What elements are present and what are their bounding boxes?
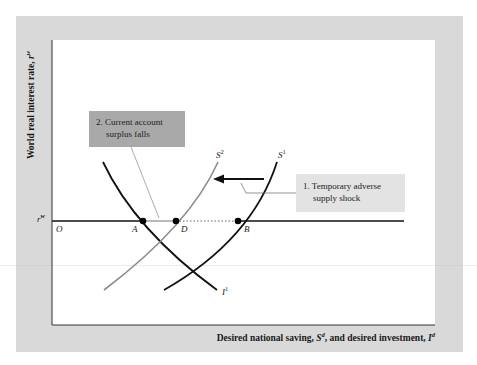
- callout-2-line-2: surplus falls: [96, 129, 163, 141]
- i1-curve: [103, 162, 217, 290]
- y-axis-label: World real interest rate, rw: [24, 51, 36, 159]
- callout-1-line-2: supply shock: [303, 193, 381, 205]
- origin-label: O: [56, 224, 63, 234]
- shift-arrow-head: [213, 175, 224, 184]
- x-axis-label: Desired national saving, Sd, and desired…: [217, 331, 435, 343]
- callout-2-line-1: 2. Current account: [96, 117, 163, 129]
- point-d-label: D: [181, 224, 188, 234]
- s1-curve-label: S1: [278, 148, 286, 160]
- callout-1-line-1: 1. Temporary adverse: [303, 181, 381, 193]
- point-d: [173, 218, 180, 225]
- callout-current-account-text: 2. Current account surplus falls: [96, 117, 163, 140]
- point-a-label: A: [132, 224, 138, 234]
- s2-curve: [104, 162, 218, 290]
- diagram-svg: [0, 0, 477, 365]
- callout-supply-shock-text: 1. Temporary adverse supply shock: [303, 181, 381, 204]
- s2-curve-label: S2: [216, 148, 224, 160]
- point-a: [140, 218, 147, 225]
- i1-curve-label: I1: [222, 285, 228, 297]
- rate-label: rw: [37, 212, 45, 224]
- point-b-label: B: [244, 224, 250, 234]
- leader-line-callout-2: [131, 147, 159, 218]
- point-b: [235, 218, 242, 225]
